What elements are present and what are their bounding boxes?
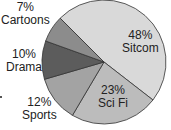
label-drama: 10% Drama <box>6 48 42 74</box>
label-cartoons: 7% Cartoons <box>1 1 50 27</box>
label-sitcom: 48% Sitcom <box>122 29 159 55</box>
label-drama-name: Drama <box>6 61 42 74</box>
label-sports: 12% Sports <box>22 96 57 122</box>
marker-dot <box>0 96 2 98</box>
label-cartoons-name: Cartoons <box>1 14 50 27</box>
label-sports-name: Sports <box>22 109 57 122</box>
label-sitcom-name: Sitcom <box>122 42 159 55</box>
label-scifi: 23% Sci Fi <box>98 84 128 110</box>
label-scifi-name: Sci Fi <box>98 97 128 110</box>
